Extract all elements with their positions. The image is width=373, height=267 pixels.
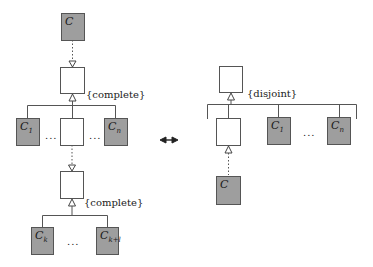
class-label: C1: [20, 120, 33, 135]
class-box-right-c-bottom: C: [216, 176, 241, 205]
class-label: C1: [271, 119, 284, 134]
class-box-cn: Cn: [104, 118, 128, 146]
class-box-upper-parent: [60, 67, 85, 94]
class-label: C: [65, 15, 73, 28]
class-label: Ck: [35, 229, 48, 244]
constraint-complete-upper: {complete}: [86, 89, 145, 100]
class-box-c1: C1: [16, 118, 40, 146]
class-box-right-parent: [219, 66, 243, 93]
class-box-upper-middle: [60, 118, 84, 146]
class-label: Cn: [331, 119, 344, 134]
class-box-right-cn: Cn: [327, 117, 351, 145]
class-box-right-c1: C1: [267, 117, 291, 145]
double-arrow-icon: [160, 137, 178, 143]
diagram-canvas: C {complete} C1 ... ... Cn {complete} Ck…: [0, 0, 373, 267]
class-box-right-white-child: [216, 118, 241, 146]
ellipsis: ...: [67, 236, 80, 247]
ellipsis: ...: [303, 127, 316, 138]
class-box-lower-parent: [60, 171, 84, 199]
class-label: Ck+l: [100, 229, 121, 244]
constraint-disjoint: {disjoint}: [247, 88, 297, 99]
class-label: Cn: [108, 120, 121, 135]
constraint-complete-lower: {complete}: [84, 197, 143, 208]
class-box-ck-plus-l: Ck+l: [96, 227, 119, 255]
class-box-c-top: C: [61, 13, 85, 41]
ellipsis: ...: [89, 130, 102, 141]
class-label: C: [220, 178, 228, 191]
ellipsis: ...: [45, 130, 58, 141]
class-box-ck: Ck: [31, 227, 54, 255]
